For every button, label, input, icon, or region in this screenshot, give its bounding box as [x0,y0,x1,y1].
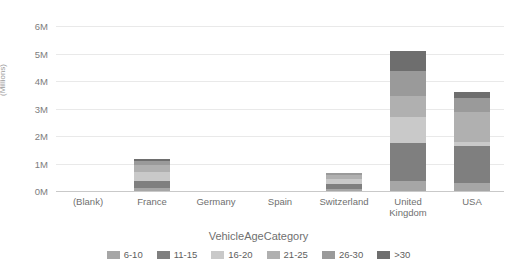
bar-switzerland[interactable] [326,173,362,191]
x-axis-tick-label: Germany [184,196,248,207]
bar-segment-2125[interactable] [454,112,490,142]
legend-label: 21-25 [284,249,308,260]
bar-segment-2125[interactable] [134,165,170,172]
legend-label: 16-20 [228,249,252,260]
y-axis-tick-label: 4M [35,76,48,87]
bar-segment-610[interactable] [326,189,362,191]
bar-series-group [56,26,504,191]
legend-swatch-icon [377,251,390,259]
legend-label: 6-10 [124,249,143,260]
y-axis-tick-label: 1M [35,158,48,169]
bar-segment-1115[interactable] [134,181,170,189]
legend-item[interactable]: 26-30 [322,249,363,260]
bar-segment-610[interactable] [134,188,170,191]
bar-usa[interactable] [454,92,490,191]
legend-item[interactable]: 21-25 [267,249,308,260]
bar-united-kingdom[interactable] [390,51,426,191]
legend-swatch-icon [107,251,120,259]
x-axis-tick-label: USA [440,196,504,207]
y-axis-tick-label: 3M [35,103,48,114]
y-axis-tick-label: 6M [35,21,48,32]
y-axis-tick-label: 2M [35,131,48,142]
bar-segment-610[interactable] [454,183,490,191]
bar-segment-1620[interactable] [390,117,426,143]
bar-france[interactable] [134,159,170,191]
legend-item[interactable]: 6-10 [107,249,143,260]
bar-segment-2630[interactable] [454,98,490,112]
x-axis-tick-label: United Kingdom [376,196,440,218]
x-axis-labels: (Blank)FranceGermanySpainSwitzerlandUnit… [56,196,504,228]
x-axis-tick-label: (Blank) [56,196,120,207]
chart-title-clipped [0,0,517,6]
bar-segment-1620[interactable] [134,172,170,181]
bar-segment-1115[interactable] [454,146,490,183]
plot-area [56,26,504,191]
legend-swatch-icon [157,251,170,259]
legend-swatch-icon [267,251,280,259]
x-axis-tick-label: Spain [248,196,312,207]
legend-item[interactable]: 11-15 [157,249,198,260]
legend-item[interactable]: >30 [377,249,410,260]
legend-swatch-icon [211,251,224,259]
legend-label: >30 [394,249,410,260]
y-axis-labels: 0M1M2M3M4M5M6M [0,0,56,200]
y-axis-tick-label: 0M [35,186,48,197]
legend-swatch-icon [322,251,335,259]
gridline [56,191,504,192]
chart-container: 0M1M2M3M4M5M6M (Millions) (Blank)FranceG… [0,0,517,278]
bar-segment-30[interactable] [390,51,426,72]
legend-label: 11-15 [174,249,198,260]
bar-segment-2125[interactable] [390,96,426,117]
x-axis-tick-label: France [120,196,184,207]
chart-legend: 6-1011-1516-2021-2526-30>30 [0,249,517,260]
legend-item[interactable]: 16-20 [211,249,252,260]
y-axis-title: (Millions) [0,64,7,96]
bar-segment-610[interactable] [390,181,426,191]
y-axis-tick-label: 5M [35,48,48,59]
legend-label: 26-30 [339,249,363,260]
x-axis-tick-label: Switzerland [312,196,376,207]
bar-segment-2630[interactable] [390,71,426,96]
bar-segment-1115[interactable] [390,143,426,182]
x-axis-title: VehicleAgeCategory [0,230,517,242]
